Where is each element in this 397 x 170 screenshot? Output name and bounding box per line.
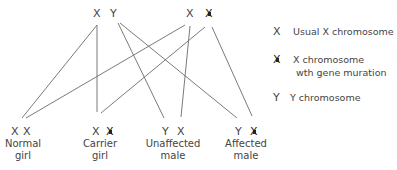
unaffected-male-y: Y (162, 126, 169, 138)
carrier-girl-label: Carrier girl (70, 138, 130, 162)
normal-girl-label: Normal girl (0, 138, 53, 162)
mother-mutated-x-chromosome: X (205, 8, 213, 20)
affected-male-y: Y (235, 126, 242, 138)
father-y-chromosome: Y (110, 8, 117, 20)
affected-male-mutated-x: X (250, 126, 258, 138)
father-x-chromosome: X (93, 8, 101, 20)
legend-y-text: Y chromosome (290, 92, 361, 104)
carrier-girl-mutated-x: X (106, 126, 114, 138)
normal-girl-x1: X (11, 126, 19, 138)
legend-y-symbol: Y (273, 92, 280, 104)
line-mother-x-to-unaffected-male (181, 26, 190, 117)
legend-mutated-x-text-1: X chromosome (293, 54, 364, 66)
line-mother-xm-to-carrier-girl (101, 27, 205, 113)
carrier-girl-x: X (92, 126, 100, 138)
legend-mutated-x-symbol: X (273, 54, 281, 66)
line-mother-x-to-normal-girl (26, 25, 185, 118)
line-father-x-to-normal-girl (22, 25, 97, 118)
legend-usual-x-symbol: X (273, 26, 281, 38)
unaffected-male-label: Unaffected male (143, 138, 203, 162)
affected-male-label: Affected male (216, 138, 276, 162)
line-father-y-to-affected-male (120, 23, 237, 118)
legend-mutated-x-text-2: wth gene muration (296, 67, 387, 79)
line-father-y-to-unaffected-male (118, 23, 164, 118)
normal-girl-x2: X (23, 126, 31, 138)
legend-usual-x-text: Usual X chromosome (293, 26, 394, 38)
mother-x-chromosome: X (186, 8, 194, 20)
unaffected-male-x: X (177, 126, 185, 138)
